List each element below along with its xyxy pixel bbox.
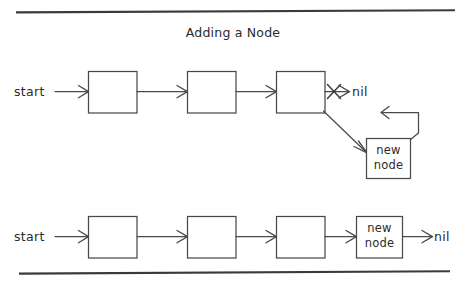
start-label-top: start [14,84,45,99]
list-node-1-top [89,72,138,114]
new-node-label-line2-top: node [374,158,404,172]
start-label-bottom: start [14,229,45,244]
list-node-2-bottom [188,217,237,259]
new-node-label-line2-bottom: node [365,236,395,250]
edge-node3-to-newnode-top [324,111,367,152]
edge-newnode-to-nil-top [382,113,419,140]
new-node-label-line1-top: new [376,143,400,157]
list-node-3-top [277,72,326,114]
list-node-2-top [188,72,237,114]
nil-label-bottom: nil [434,229,450,244]
top-divider-rule [16,10,455,12]
new-node-label-line1-bottom: new [367,221,391,235]
diagram-before: start nil [14,72,419,179]
list-node-3-bottom [277,217,326,259]
diagram-after: start new node nil [14,217,450,259]
bottom-divider-rule [19,271,450,273]
list-node-1-bottom [89,217,138,259]
figure-title: Adding a Node [186,25,280,40]
nil-label-top: nil [352,84,368,99]
figure-adding-a-node: Adding a Node start [0,0,467,286]
